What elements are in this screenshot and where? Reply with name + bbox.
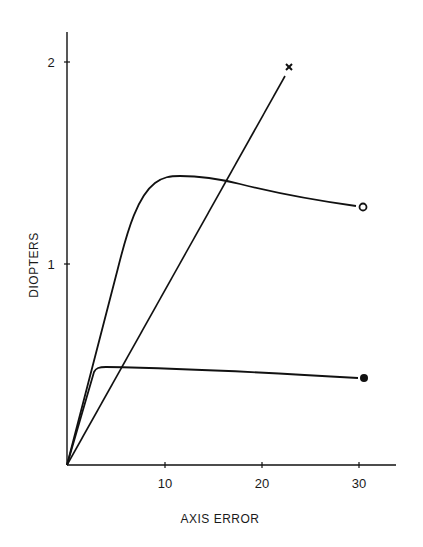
x-marker-icon [286,64,292,70]
x-tick-label-10: 10 [158,476,172,491]
open-circle-marker-icon [360,204,367,211]
series-filled-circle-curve [67,367,358,465]
series-open-circle-curve [67,176,356,465]
x-axis-label: AXIS ERROR [180,512,259,526]
y-tick-label-2: 2 [47,55,54,70]
filled-circle-marker-icon [360,374,368,382]
chart: 1 2 10 20 30 AXIS ERROR DIOPTERS [0,0,423,547]
series-linear-line [67,76,285,465]
y-axis-label: DIOPTERS [27,232,41,297]
y-tick-label-1: 1 [47,257,54,272]
x-tick-label-30: 30 [352,476,366,491]
x-tick-label-20: 20 [255,476,269,491]
